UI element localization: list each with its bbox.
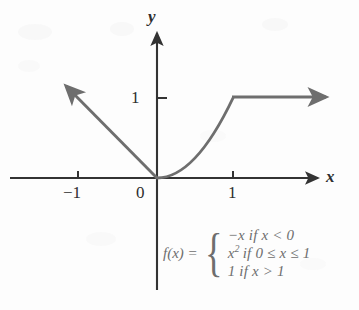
- case-expression: −x: [228, 227, 245, 243]
- y-tick-label-one: 1: [131, 89, 140, 106]
- origin-label: 0: [136, 184, 145, 201]
- case-condition: if x > 1: [235, 263, 284, 279]
- formula-case-line: −xif x < 0: [228, 228, 311, 243]
- formula-cases: −xif x < 0 x2if 0 ≤ x ≤ 1 1if x > 1: [228, 228, 311, 279]
- x-tick-label-minus-one: −1: [63, 184, 81, 201]
- piecewise-function-formula: f(x) = { −xif x < 0 x2if 0 ≤ x ≤ 1 1if x…: [163, 228, 310, 279]
- case-exponent: 2: [235, 243, 240, 254]
- formula-case-line: x2if 0 ≤ x ≤ 1: [228, 246, 311, 261]
- formula-case-line: 1if x > 1: [228, 264, 311, 279]
- x-axis-label: x: [326, 168, 335, 185]
- y-axis-label: y: [148, 8, 156, 25]
- x-tick-label-one: 1: [228, 184, 237, 201]
- curve-branch-negative-ray: [66, 86, 157, 178]
- curve-branch-parabola: [157, 98, 233, 178]
- case-condition: if 0 ≤ x ≤ 1: [240, 245, 311, 261]
- case-expression: x: [228, 245, 235, 261]
- case-condition: if x < 0: [245, 227, 294, 243]
- figure-canvas: y x 1 0 −1 1 f(x) = { −xif x < 0 x2if 0 …: [0, 0, 359, 310]
- formula-brace: {: [204, 237, 224, 269]
- formula-left-hand-side: f(x) =: [163, 246, 200, 261]
